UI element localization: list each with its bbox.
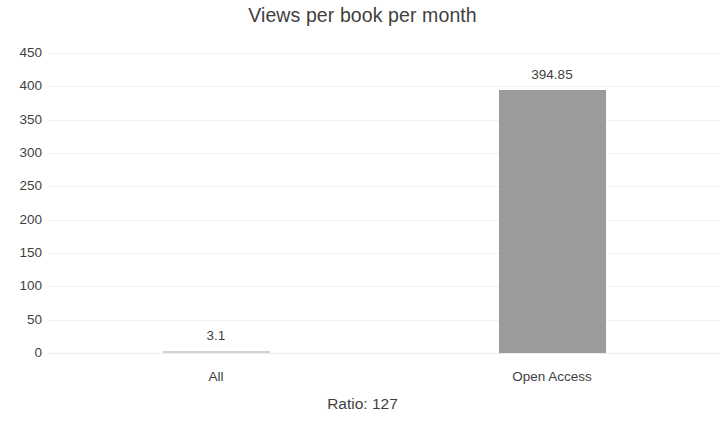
x-axis: AllOpen Access — [48, 370, 720, 390]
y-tick-label: 450 — [0, 46, 42, 60]
y-axis: 450400350300250200150100500 — [0, 53, 42, 353]
y-tick-label: 150 — [0, 246, 42, 260]
y-tick-label: 350 — [0, 113, 42, 127]
bar-value-label: 394.85 — [492, 68, 612, 82]
bar-open-access[interactable] — [499, 90, 606, 353]
y-tick-label: 100 — [0, 280, 42, 294]
gridline — [48, 253, 720, 254]
x-tick-label: All — [136, 370, 296, 384]
gridline — [48, 153, 720, 154]
x-tick-label: Open Access — [472, 370, 632, 384]
gridline — [48, 320, 720, 321]
ratio-caption: Ratio: 127 — [0, 395, 725, 413]
bar-all[interactable] — [163, 351, 270, 353]
y-tick-label: 300 — [0, 146, 42, 160]
y-tick-label: 250 — [0, 180, 42, 194]
chart-title: Views per book per month — [0, 4, 725, 27]
chart-container: Views per book per month 450400350300250… — [0, 0, 725, 423]
gridline — [48, 86, 720, 87]
gridline — [48, 53, 720, 54]
gridline — [48, 186, 720, 187]
gridline — [48, 120, 720, 121]
gridline — [48, 220, 720, 221]
plot-area: 3.1394.85 — [48, 53, 720, 353]
y-tick-label: 200 — [0, 213, 42, 227]
y-tick-label: 0 — [0, 346, 42, 360]
gridline — [48, 353, 720, 354]
gridline — [48, 286, 720, 287]
y-tick-label: 50 — [0, 313, 42, 327]
bar-value-label: 3.1 — [156, 329, 276, 343]
y-tick-label: 400 — [0, 80, 42, 94]
